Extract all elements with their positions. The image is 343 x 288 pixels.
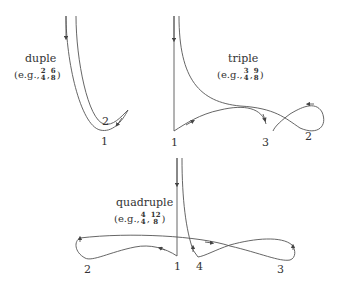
duple-label: duple bbox=[25, 52, 56, 65]
example-prefix: (e.g., bbox=[14, 69, 40, 80]
time-signature: 24 bbox=[41, 67, 46, 81]
example-prefix: (e.g., bbox=[114, 213, 140, 224]
quadruple-pattern-path bbox=[76, 158, 295, 260]
quadruple-label: quadruple bbox=[116, 196, 173, 209]
example-suffix: ) bbox=[57, 69, 61, 80]
duple-pattern-path bbox=[66, 16, 128, 130]
time-signature: 34 bbox=[244, 67, 249, 81]
example-suffix: ) bbox=[260, 69, 264, 80]
beat-label-2: 2 bbox=[305, 131, 312, 142]
beat-label-4: 4 bbox=[196, 261, 203, 272]
time-signature: 68 bbox=[51, 67, 56, 81]
example-suffix: ) bbox=[162, 213, 166, 224]
beat-label-3: 3 bbox=[262, 137, 269, 148]
triple-label: triple bbox=[228, 52, 258, 65]
triple-example: (e.g., 34, 98 ) bbox=[217, 67, 264, 81]
duple-example: (e.g., 24, 68 ) bbox=[14, 67, 61, 81]
quadruple-example: (e.g., 44, 128 ) bbox=[114, 211, 165, 225]
beat-label-3: 3 bbox=[277, 264, 284, 275]
beat-label-1: 1 bbox=[174, 261, 181, 272]
beat-label-2: 2 bbox=[102, 116, 109, 127]
example-prefix: (e.g., bbox=[217, 69, 243, 80]
time-signature: 98 bbox=[254, 67, 259, 81]
time-signature: 44 bbox=[141, 211, 146, 225]
beat-label-1: 1 bbox=[101, 136, 108, 147]
beat-label-1: 1 bbox=[171, 137, 178, 148]
time-signature: 128 bbox=[151, 211, 161, 225]
beat-label-2: 2 bbox=[84, 264, 91, 275]
